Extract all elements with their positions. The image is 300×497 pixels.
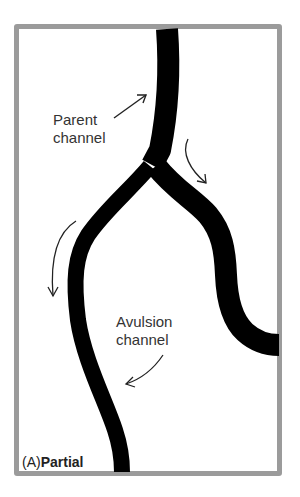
panel-title: Partial (41, 454, 84, 470)
avulsion-label-line1: Avulsion (116, 313, 172, 331)
avulsion-label-line2: channel (116, 331, 172, 349)
parent-label-line2: channel (53, 129, 106, 147)
parent-channel (152, 29, 168, 165)
parent-channel-continuation (156, 166, 279, 345)
flow-arrow-right-icon (186, 139, 206, 183)
parent-channel-label: Parent channel (53, 111, 106, 147)
panel-letter: (A) (22, 454, 41, 470)
parent-channel-arrow-icon (114, 95, 146, 118)
avulsion-channel-arrow-icon (126, 355, 163, 387)
avulsion-channel-label: Avulsion channel (116, 313, 172, 349)
parent-label-line1: Parent (53, 111, 106, 129)
channel-diagram (0, 0, 300, 497)
panel-label: (A)Partial (22, 454, 83, 470)
